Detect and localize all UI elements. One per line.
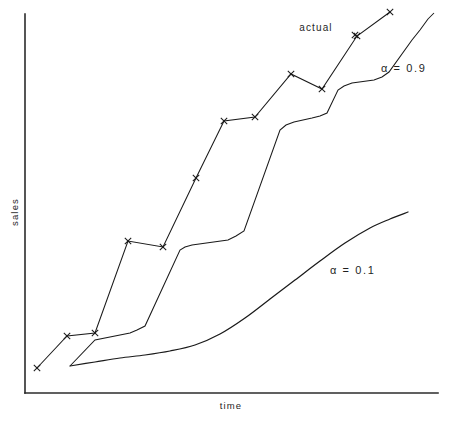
series-line-actual xyxy=(37,12,390,368)
annotation-alpha-0-9: α = 0.9 xyxy=(381,62,426,74)
chart-series-group xyxy=(37,12,434,368)
y-axis-title: sales xyxy=(9,198,20,226)
chart-figure: sales time actual α = 0.9 α = 0.1 xyxy=(0,0,450,423)
chart-canvas: sales time actual α = 0.9 α = 0.1 xyxy=(0,0,450,423)
x-axis-title: time xyxy=(220,400,243,411)
legend-marker-actual xyxy=(352,32,358,38)
series-line-alpha-0-1 xyxy=(70,212,408,366)
chart-axes xyxy=(25,14,438,393)
annotation-actual: actual xyxy=(299,22,332,33)
annotation-alpha-0-1: α = 0.1 xyxy=(330,264,375,276)
